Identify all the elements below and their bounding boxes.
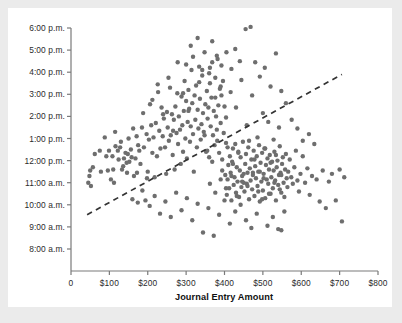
chart-root: 6:00 p.m.5:00 p.m.4:00 p.m.3:00 p.m.2:00… (0, 0, 402, 323)
scatter-point (197, 64, 201, 68)
scatter-point (163, 145, 167, 149)
scatter-point (91, 165, 95, 169)
scatter-point (282, 209, 286, 213)
scatter-point (263, 146, 267, 150)
scatter-point (278, 187, 282, 191)
scatter-point (233, 47, 237, 51)
scatter-point (175, 91, 179, 95)
scatter-point (148, 102, 152, 106)
scatter-point (240, 179, 244, 183)
scatter-point (218, 84, 222, 88)
scatter-point (218, 121, 222, 125)
scatter-point (249, 226, 253, 230)
scatter-point (172, 167, 176, 171)
scatter-point (321, 168, 325, 172)
y-axis-tick-label: 6:00 p.m. (0, 23, 65, 33)
scatter-point (211, 133, 215, 137)
scatter-point (220, 157, 224, 161)
scatter-point (113, 130, 117, 134)
scatter-point (261, 176, 265, 180)
scatter-point (263, 66, 267, 70)
scatter-point (168, 85, 172, 89)
scatter-point (238, 155, 242, 159)
scatter-point (271, 168, 275, 172)
scatter-point (124, 161, 128, 165)
scatter-point (207, 155, 211, 159)
scatter-point (228, 154, 232, 158)
scatter-point (194, 83, 198, 87)
y-axis-tick-label: 1:00 p.m. (0, 134, 65, 144)
scatter-point (294, 148, 298, 152)
scatter-point (337, 167, 341, 171)
scatter-point (199, 122, 203, 126)
scatter-point (167, 139, 171, 143)
scatter-point (135, 171, 139, 175)
scatter-point (269, 175, 273, 179)
scatter-point (234, 105, 238, 109)
scatter-point (260, 197, 264, 201)
scatter-point (206, 105, 210, 109)
scatter-point (245, 171, 249, 175)
scatter-point (217, 213, 221, 217)
scatter-point (161, 134, 165, 138)
scatter-point (104, 154, 108, 158)
scatter-point (258, 169, 262, 173)
scatter-point (133, 156, 137, 160)
scatter-point (195, 145, 199, 149)
scatter-point (236, 151, 240, 155)
scatter-point (295, 178, 299, 182)
scatter-point (245, 184, 249, 188)
scatter-point (146, 169, 150, 173)
scatter-point (188, 140, 192, 144)
scatter-point (206, 206, 210, 210)
scatter-point (232, 183, 236, 187)
scatter-point (268, 161, 272, 165)
scatter-point (121, 164, 125, 168)
scatter-point (307, 132, 311, 136)
scatter-point (185, 196, 189, 200)
scatter-point (301, 139, 305, 143)
scatter-point (202, 133, 206, 137)
scatter-point (116, 157, 120, 161)
scatter-point (189, 68, 193, 72)
scatter-point (327, 179, 331, 183)
scatter-point (180, 123, 184, 127)
scatter-point (297, 189, 301, 193)
scatter-point (209, 95, 213, 99)
scatter-point (109, 177, 113, 181)
scatter-point (177, 114, 181, 118)
scatter-point (231, 146, 235, 150)
scatter-point (250, 93, 254, 97)
scatter-point (197, 80, 201, 84)
scatter-point (150, 151, 154, 155)
scatter-point (226, 163, 230, 167)
scatter-point (113, 144, 117, 148)
scatter-point (238, 59, 242, 63)
scatter-point (340, 219, 344, 223)
scatter-point (225, 177, 229, 181)
scatter-point (162, 116, 166, 120)
scatter-point (342, 175, 346, 179)
scatter-point (228, 221, 232, 225)
scatter-point (251, 148, 255, 152)
scatter-point (210, 160, 214, 164)
scatter-point (158, 146, 162, 150)
scatter-point (281, 181, 285, 185)
scatter-point (205, 148, 209, 152)
scatter-point (170, 112, 174, 116)
scatter-point (289, 175, 293, 179)
y-axis-tick-label: 12:00 p.m. (0, 156, 65, 166)
scatter-point (252, 157, 256, 161)
scatter-point (208, 124, 212, 128)
scatter-point (222, 104, 226, 108)
scatter-point (129, 147, 133, 151)
scatter-point (199, 137, 203, 141)
scatter-point (190, 101, 194, 105)
scatter-point (284, 101, 288, 105)
scatter-point (243, 162, 247, 166)
scatter-point (281, 155, 285, 159)
scatter-point (274, 198, 278, 202)
scatter-point (224, 50, 228, 54)
scatter-point (212, 234, 216, 238)
y-axis-tick-label: 9:00 a.m. (0, 222, 65, 232)
